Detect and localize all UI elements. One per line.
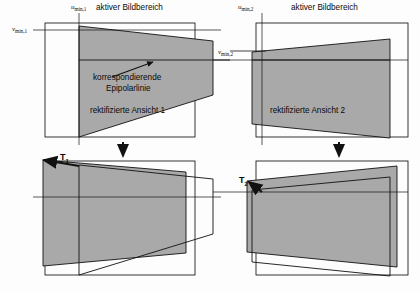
top-left-header: aktiver Bildbereich	[96, 3, 163, 12]
bottom-left-translated-quad	[43, 160, 186, 266]
v-min-1-label: vmin,1	[12, 25, 27, 34]
rectified-view-2-label: rektifizierte Ansicht 2	[270, 106, 345, 115]
panel-bottom-left	[33, 160, 221, 275]
epipolar-label-line2: Epipolarlinie	[106, 84, 151, 93]
top-right-header: aktiver Bildbereich	[291, 3, 358, 12]
u-min-1-label: umin,1	[71, 3, 86, 12]
u-min-2-label: umin,2	[238, 3, 253, 12]
panel-top-right	[213, 13, 408, 145]
rectified-view-1-label: rektifizierte Ansicht 1	[90, 106, 165, 115]
diagram-canvas: umin,1 aktiver Bildbereich vmin,1 korres…	[0, 0, 420, 292]
epipolar-label-line1: korrespondierende	[93, 73, 161, 82]
v-min-2-label: vmin,2	[218, 48, 233, 57]
t2-label: T2	[239, 175, 248, 187]
top-right-rectified-quad	[252, 39, 390, 138]
bottom-right-translated-quad	[247, 166, 397, 267]
t1-label: T1	[60, 152, 69, 164]
diagram-svg	[0, 0, 420, 292]
